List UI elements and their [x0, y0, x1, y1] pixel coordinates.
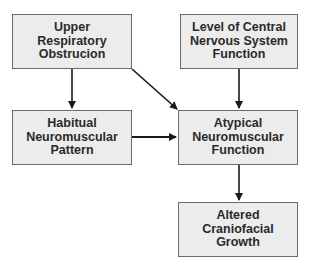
node-label: Upper Respiratory Obstrucion	[37, 21, 106, 62]
edge-upper-to-atypical	[132, 69, 177, 109]
node-label: Altered Craniofacial Growth	[202, 209, 274, 250]
node-label: Habitual Neuromuscular Pattern	[26, 117, 118, 158]
node-upper-respiratory-obstruction: Upper Respiratory Obstrucion	[12, 14, 132, 69]
node-habitual-neuromuscular-pattern: Habitual Neuromuscular Pattern	[12, 110, 132, 165]
node-atypical-neuromuscular-function: Atypical Neuromuscular Function	[178, 110, 298, 165]
node-altered-craniofacial-growth: Altered Craniofacial Growth	[178, 202, 298, 257]
node-label: Atypical Neuromuscular Function	[192, 117, 284, 158]
node-label: Level of Central Nervous System Function	[190, 21, 288, 62]
node-cns-function: Level of Central Nervous System Function	[180, 14, 298, 69]
